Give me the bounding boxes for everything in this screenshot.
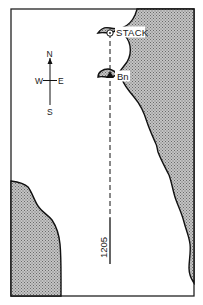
compass-west: W xyxy=(35,76,43,86)
chart-map: STACK Bn 1205 N W E S xyxy=(0,0,203,305)
compass-north: N xyxy=(47,49,53,59)
bearing-label: 1205 xyxy=(98,237,109,258)
compass-south: S xyxy=(47,107,53,117)
stack-marker xyxy=(107,30,113,36)
stack-label: STACK xyxy=(116,27,149,38)
beacon-label: Bn xyxy=(117,71,129,82)
compass-east: E xyxy=(58,76,64,86)
